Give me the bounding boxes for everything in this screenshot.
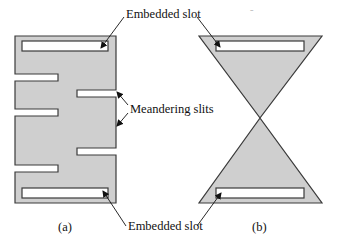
label-embedded-slot-top: Embedded slot <box>126 7 201 21</box>
arrow-slit-1 <box>117 92 128 105</box>
embedded-slot-top-b <box>216 41 304 51</box>
speck: ~ <box>250 7 254 13</box>
caption-b: (b) <box>252 220 267 234</box>
caption-a: (a) <box>58 220 72 234</box>
leader-lines <box>101 17 221 226</box>
label-meandering-slits: Meandering slits <box>130 102 214 116</box>
antenna-diagram: Embedded slot Meandering slits Embedded … <box>0 0 337 246</box>
meandered-patch <box>15 36 116 203</box>
bowtie-patch <box>199 36 322 203</box>
embedded-slot-top-a <box>22 41 108 51</box>
label-embedded-slot-bottom: Embedded slot <box>128 219 203 233</box>
embedded-slot-bottom-a <box>22 188 108 198</box>
arrow-slit-2 <box>117 113 128 126</box>
antenna-b <box>199 36 322 203</box>
embedded-slot-bottom-b <box>216 188 304 198</box>
antenna-a <box>15 36 116 203</box>
